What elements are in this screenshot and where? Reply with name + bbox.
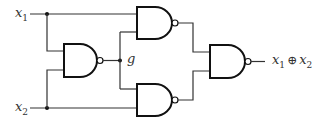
xor-operator: ⊕ (285, 53, 299, 67)
input-label-x1: x1 (15, 6, 28, 23)
output-label: x1⊕x2 (272, 53, 312, 70)
nand-gate-top-bubble (172, 20, 178, 26)
input-label-x2: x2 (15, 100, 28, 117)
out-b-sub: 2 (306, 60, 312, 70)
x2-sub: 2 (22, 107, 28, 117)
wire-bottom-to-out (178, 71, 210, 100)
nand-gate-bottom (137, 84, 172, 116)
wire-top-to-out (178, 23, 210, 52)
wire-x1-to-gate-g (47, 14, 64, 51)
nand-gate-bottom-bubble (172, 97, 178, 103)
intermediate-label-g: g (127, 52, 135, 65)
x1-sub: 1 (22, 13, 28, 23)
nand-gate-top (137, 7, 172, 39)
nand-gate-output-bubble (245, 59, 251, 65)
wire-x2-to-gate-g (47, 70, 64, 108)
nand-gate-output (210, 45, 245, 78)
nand-gate-g (64, 44, 97, 77)
xor-nand-circuit: x1 x2 g x1⊕x2 (0, 0, 324, 126)
nand-gate-g-bubble (97, 58, 103, 64)
